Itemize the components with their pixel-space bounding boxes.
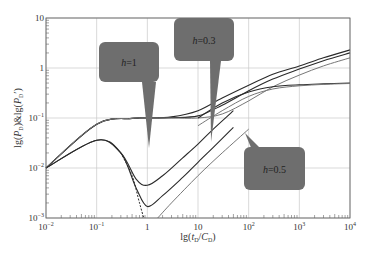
x-tick-label: 10−1 (89, 221, 104, 232)
series-line (198, 84, 350, 126)
callout-label: h=1 (121, 57, 137, 68)
callout: h=1 (99, 42, 159, 148)
x-axis-title: lg(tD/CD) (180, 231, 215, 243)
y-tick-label: 10−1 (29, 112, 44, 123)
series-line (46, 111, 233, 186)
series-line (46, 127, 233, 206)
callout-label: h=0.3 (192, 35, 215, 46)
y-tick-labels: 10−310−210−1110 (29, 13, 45, 223)
x-tick-label: 1 (145, 222, 150, 232)
x-tick-label: 103 (293, 221, 305, 232)
series-line (158, 129, 249, 218)
series-line (121, 153, 144, 218)
callout: h=0.5 (244, 133, 305, 190)
log-log-chart: 10−210−1110102103104 10−310−210−1110 h=1… (0, 0, 368, 257)
x-tick-labels: 10−210−1110102103104 (38, 221, 356, 232)
y-tick-label: 1 (40, 63, 45, 73)
callout-label: h=0.5 (263, 164, 286, 175)
callout: h=0.3 (174, 18, 234, 142)
y-axis-title: lg(PD)&lg(PD′) (12, 88, 24, 148)
y-tick-label: 10 (35, 13, 45, 23)
x-tick-label: 10−2 (38, 221, 53, 232)
x-tick-label: 104 (344, 221, 356, 232)
callouts: h=1h=0.3h=0.5 (99, 18, 305, 190)
x-tick-label: 102 (243, 221, 255, 232)
y-tick-label: 10−2 (29, 162, 44, 173)
